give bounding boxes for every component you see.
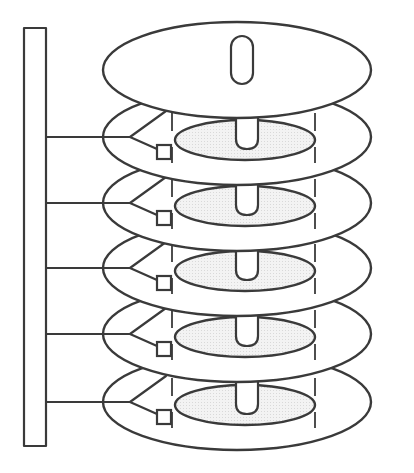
spindle-icon: [236, 248, 258, 280]
disk-diagram: Hard disk platter stack with actuator ar…: [0, 0, 414, 473]
spindle-icon: [231, 36, 253, 84]
actuator-bar: [24, 28, 46, 446]
top-platter: [103, 22, 371, 118]
spindle-icon: [236, 314, 258, 346]
read-write-head-icon: [157, 145, 171, 159]
read-write-head-icon: [157, 276, 171, 290]
read-write-head-icon: [157, 211, 171, 225]
spindle-icon: [236, 183, 258, 215]
read-write-head-icon: [157, 342, 171, 356]
read-write-head-icon: [157, 410, 171, 424]
disk-diagram-canvas: [0, 0, 414, 473]
spindle-icon: [236, 117, 258, 149]
spindle-icon: [236, 382, 258, 414]
